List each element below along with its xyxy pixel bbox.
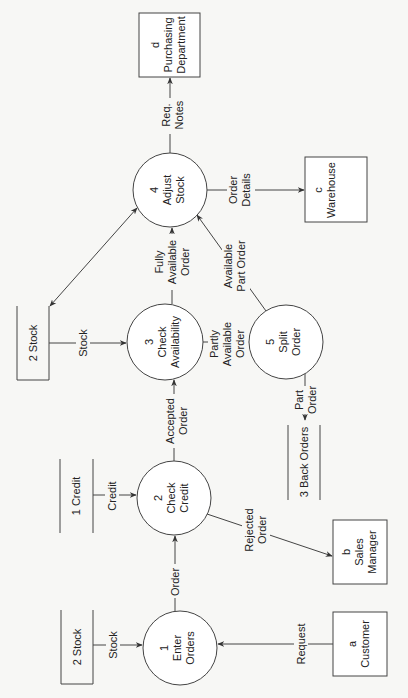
flow-label-stock-top: Stock: [77, 329, 89, 357]
flow-label-request: Request: [295, 624, 307, 665]
process-4-name-line1: Adjust: [161, 175, 173, 206]
entity-warehouse-id: c: [312, 187, 324, 193]
flow-label-order-details-line1: Order: [227, 176, 239, 204]
flow-label-accepted-order-line1: Accepted: [164, 398, 176, 444]
process-adjust-stock[interactable]: 4 Adjust Stock: [133, 153, 207, 227]
process-1-name-line1: Enter: [171, 635, 183, 662]
store-back-orders[interactable]: 3 Back Orders: [288, 425, 320, 500]
process-split-order[interactable]: 5 Split Order: [249, 305, 323, 379]
entity-purchasing-name-line1: Purchasing: [162, 17, 174, 72]
flow-label-req-notes-line2: Notes: [173, 100, 185, 129]
process-2-name-line1: Check: [165, 482, 177, 514]
store-back-orders-label: 3 Back Orders: [298, 426, 310, 497]
flow-label-available-part-order-line1: Available: [222, 244, 234, 288]
process-3-number: 3: [143, 339, 155, 345]
process-check-credit[interactable]: 2 Check Credit: [137, 461, 211, 535]
flow-label-order-details-line2: Details: [240, 173, 252, 207]
entity-purchasing-department[interactable]: d Purchasing Department: [139, 13, 200, 77]
process-4-number: 4: [148, 187, 160, 193]
flow-label-rejected-order-line1: Rejected: [243, 508, 255, 551]
process-check-availability[interactable]: 3 Check Availability: [127, 304, 203, 380]
store-stock-bottom[interactable]: 2 Stock: [61, 610, 93, 684]
flow-label-part-order-line1: Part: [293, 390, 305, 410]
entity-sales-manager-name-line2: Manager: [366, 530, 378, 574]
store-stock-top[interactable]: 2 Stock: [17, 306, 49, 380]
data-flow-diagram: a Customer b Sales Manager c Warehouse d…: [0, 0, 408, 698]
entity-sales-manager[interactable]: b Sales Manager: [333, 520, 387, 584]
flow-label-partly-available-order-line3: Order: [234, 330, 246, 358]
flow-label-partly-available-order-line1: Partly: [208, 329, 220, 358]
flow-label-credit: Credit: [106, 481, 118, 510]
entity-customer-name: Customer: [359, 620, 371, 668]
flow-label-partly-available-order-line2: Available: [221, 322, 233, 366]
store-stock-bottom-label: 2 Stock: [71, 628, 83, 665]
entity-warehouse-name: Warehouse: [325, 162, 337, 218]
process-3-name-line1: Check: [156, 326, 168, 358]
flow-label-part-order-line2: Order: [306, 386, 318, 414]
process-5-number: 5: [264, 339, 276, 345]
entity-customer[interactable]: a Customer: [333, 612, 387, 676]
process-2-name-line2: Credit: [178, 483, 190, 512]
flow-label-available-part-order-line2: Part Order: [235, 240, 247, 292]
flow-label-stock-bottom: Stock: [107, 631, 119, 659]
entity-customer-id: a: [346, 640, 358, 647]
flow-label-rejected-order-line2: Order: [256, 516, 268, 544]
flow-label-fully-available-order-line3: Order: [179, 248, 191, 276]
process-5-name-line1: Split: [277, 331, 289, 352]
flow-label-accepted-order-line2: Order: [177, 407, 189, 435]
flow-stock-update-line: [50, 208, 137, 306]
process-4-name-line2: Stock: [174, 176, 186, 204]
process-5-name-line2: Order: [290, 328, 302, 356]
process-2-number: 2: [152, 495, 164, 501]
process-3-name-line2: Availability: [169, 316, 181, 368]
entity-sales-manager-id: b: [340, 549, 352, 555]
flow-label-fully-available-order-line1: Fully: [153, 250, 165, 274]
process-enter-orders[interactable]: 1 Enter Orders: [143, 611, 217, 685]
process-1-name-line2: Orders: [184, 631, 196, 665]
entity-warehouse[interactable]: c Warehouse: [305, 157, 367, 222]
store-credit[interactable]: 1 Credit: [60, 459, 93, 533]
process-1-number: 1: [158, 645, 170, 651]
entity-purchasing-id: d: [149, 42, 161, 48]
entity-sales-manager-name-line1: Sales: [353, 538, 365, 566]
store-stock-top-label: 2 Stock: [27, 324, 39, 361]
flow-label-req-notes-line1: Req.: [160, 103, 172, 126]
flow-label-fully-available-order-line2: Available: [166, 240, 178, 284]
store-credit-label: 1 Credit: [70, 477, 82, 516]
flow-label-order: Order: [169, 568, 181, 596]
entity-purchasing-name-line2: Department: [175, 16, 187, 73]
